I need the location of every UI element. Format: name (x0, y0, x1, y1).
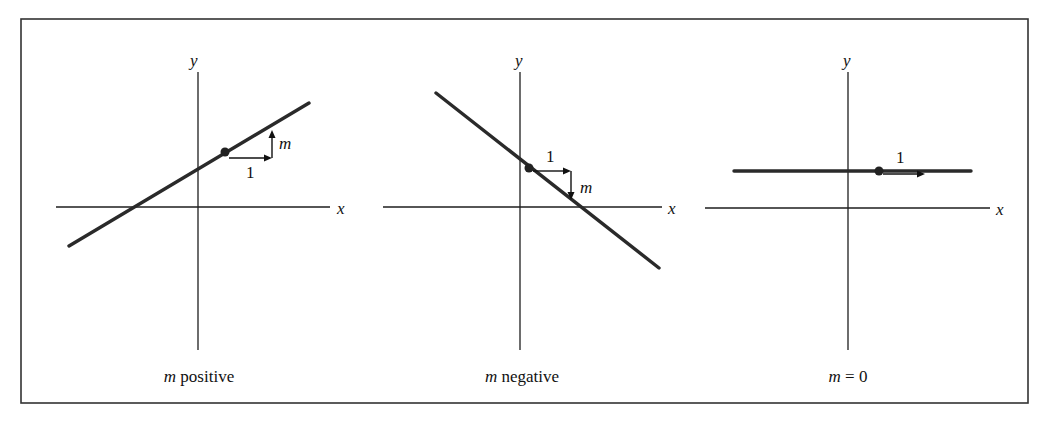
run-label: 1 (896, 148, 905, 167)
x-axis-label: x (995, 200, 1004, 219)
rise-label: m (580, 178, 592, 197)
point-on-line (875, 167, 884, 176)
y-axis-label: y (841, 51, 851, 70)
arrowhead-right-icon (264, 155, 272, 162)
caption-m-zero: m = 0 (829, 367, 868, 386)
sloped-line-positive (69, 103, 309, 246)
x-axis-label: x (336, 199, 345, 218)
x-axis-label: x (667, 199, 676, 218)
point-on-line (525, 164, 534, 173)
panel-m-zero: x y 1 m = 0 (705, 51, 1004, 386)
caption-m-positive: m positive (164, 367, 234, 386)
panel-m-positive: x y 1 m m positive (56, 51, 345, 386)
panel-m-negative: x y 1 m m negative (383, 51, 676, 386)
caption-m-negative: m negative (485, 367, 559, 386)
arrowhead-right-icon (563, 168, 571, 175)
run-label: 1 (246, 163, 255, 182)
point-on-line (221, 148, 230, 157)
sloped-line-negative (436, 93, 659, 268)
figure-frame (21, 19, 1028, 403)
arrowhead-up-icon (269, 130, 276, 138)
rise-label: m (279, 134, 291, 153)
y-axis-label: y (188, 51, 198, 70)
run-label: 1 (546, 147, 555, 166)
slope-diagram: x y 1 m m positive x y 1 m m negative (0, 0, 1050, 430)
y-axis-label: y (513, 51, 523, 70)
